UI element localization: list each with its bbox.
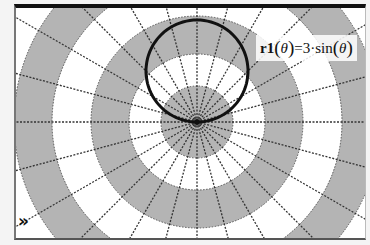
function-name: r1 [260, 40, 274, 56]
graph-window: r1(θ)=3·sin(θ) » [0, 0, 370, 245]
expand-entry-line-icon[interactable]: » [18, 213, 29, 230]
function-label[interactable]: r1(θ)=3·sin(θ) [256, 35, 357, 61]
polar-graph-area[interactable]: r1(θ)=3·sin(θ) [14, 4, 366, 240]
